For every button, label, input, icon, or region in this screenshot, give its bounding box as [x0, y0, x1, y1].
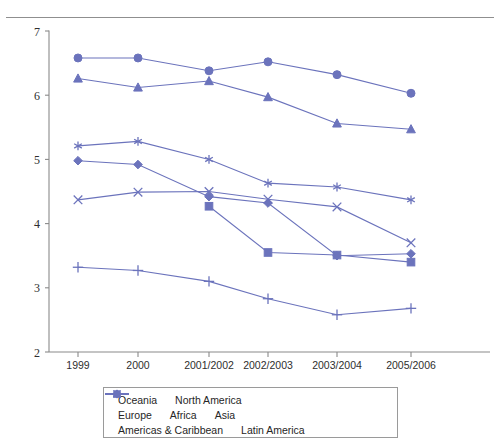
data-point-marker-plus — [113, 390, 122, 399]
series-americas-caribbean — [205, 202, 415, 265]
y-axis-tick-label: 3 — [34, 281, 40, 295]
data-point-marker-triangle — [74, 74, 83, 82]
data-point-marker-square — [205, 202, 213, 210]
series-line — [78, 161, 411, 256]
legend-item-europe[interactable]: Europe — [113, 409, 165, 421]
data-point-marker-circle — [264, 58, 272, 66]
data-point-marker-circle — [74, 54, 82, 62]
x-axis-tick-label: 2000 — [126, 359, 150, 371]
series-africa — [74, 156, 416, 260]
legend-item-americas-caribbean[interactable]: Americas & Caribbean — [113, 424, 236, 436]
legend-item-latin-america[interactable]: Latin America — [236, 424, 318, 436]
x-axis-tick-label: 2001/2002 — [184, 359, 234, 371]
legend-item-north-america[interactable]: North America — [170, 394, 255, 406]
legend-item-africa[interactable]: Africa — [165, 409, 210, 421]
series-latin-america — [73, 262, 416, 320]
chart-legend: OceaniaNorth AmericaEuropeAfricaAsiaAmer… — [103, 387, 398, 438]
legend-rows: OceaniaNorth AmericaEuropeAfricaAsiaAmer… — [104, 388, 397, 437]
chart-container: 234567199920002001/20022002/20032003/200… — [0, 0, 500, 446]
data-point-marker-square — [333, 251, 341, 259]
legend-label: Asia — [215, 409, 235, 421]
data-point-marker-plus — [332, 310, 342, 320]
data-point-marker-plus — [204, 276, 214, 286]
data-point-marker-circle — [407, 89, 415, 97]
data-point-marker-square — [407, 258, 415, 266]
data-point-marker-circle — [134, 54, 142, 62]
series-line — [78, 267, 411, 315]
data-point-marker-circle — [333, 71, 341, 79]
y-axis-tick-label: 2 — [34, 346, 40, 360]
data-point-marker-diamond — [74, 156, 83, 165]
legend-label: North America — [175, 394, 242, 406]
data-point-marker-plus — [133, 265, 143, 275]
series-asia — [74, 187, 416, 247]
series-line — [78, 141, 411, 199]
x-axis-tick-label: 2003/2004 — [312, 359, 362, 371]
data-point-marker-plus — [406, 303, 416, 313]
y-axis-tick-label: 4 — [34, 217, 40, 231]
data-point-marker-cross-x — [407, 239, 416, 248]
legend-row: OceaniaNorth America — [104, 392, 397, 407]
legend-label: Africa — [170, 409, 197, 421]
data-point-marker-diamond — [134, 160, 143, 169]
y-axis-tick-label: 7 — [34, 25, 40, 39]
data-point-marker-plus — [73, 262, 83, 272]
series-line — [78, 58, 411, 93]
series-line — [78, 192, 411, 243]
y-axis-tick-label: 6 — [34, 89, 40, 103]
legend-label: Latin America — [241, 424, 305, 436]
legend-row: EuropeAfricaAsia — [104, 407, 397, 422]
data-point-marker-circle — [205, 67, 213, 75]
line-chart-plot: 234567199920002001/20022002/20032003/200… — [0, 0, 500, 446]
legend-row: Americas & CaribbeanLatin America — [104, 422, 397, 437]
y-axis-tick-label: 5 — [34, 153, 40, 167]
plus-marker-icon — [104, 388, 130, 400]
series-north-america — [74, 74, 416, 133]
x-axis-tick-label: 2002/2003 — [243, 359, 293, 371]
data-point-marker-plus — [263, 294, 273, 304]
data-point-marker-triangle — [205, 76, 214, 84]
data-point-marker-triangle — [333, 119, 342, 127]
data-point-marker-diamond — [407, 249, 416, 258]
legend-label: Americas & Caribbean — [118, 424, 223, 436]
series-line — [78, 79, 411, 130]
x-axis-tick-label: 2005/2006 — [386, 359, 436, 371]
legend-item-asia[interactable]: Asia — [210, 409, 248, 421]
data-point-marker-square — [264, 249, 272, 257]
x-axis-tick-label: 1999 — [66, 359, 90, 371]
series-line — [209, 206, 411, 262]
data-point-marker-asterisk — [205, 155, 213, 164]
legend-label: Europe — [118, 409, 152, 421]
